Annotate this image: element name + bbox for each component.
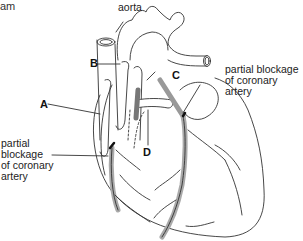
title-fragment: am	[0, 0, 15, 12]
label-blockage-left: partial blockage of coronary artery	[1, 138, 54, 182]
label-C: C	[172, 69, 180, 81]
label-aorta: aorta	[118, 2, 142, 13]
label-blockage-right: partial blockage of coronary artery	[225, 64, 299, 97]
label-A: A	[40, 98, 48, 110]
label-B: B	[90, 57, 98, 69]
heart-illustration	[0, 0, 303, 241]
label-D: D	[143, 146, 151, 158]
heart-diagram: am aorta B C A D partial blockage of cor…	[0, 0, 303, 241]
